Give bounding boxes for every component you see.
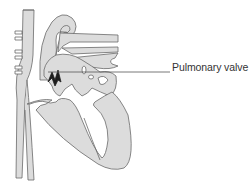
pulmonary-valve-label: Pulmonary valve	[172, 61, 248, 73]
ventricles	[27, 92, 131, 169]
vena-cava	[16, 10, 34, 180]
heart-diagram	[0, 0, 249, 185]
side-vessels	[15, 31, 22, 74]
